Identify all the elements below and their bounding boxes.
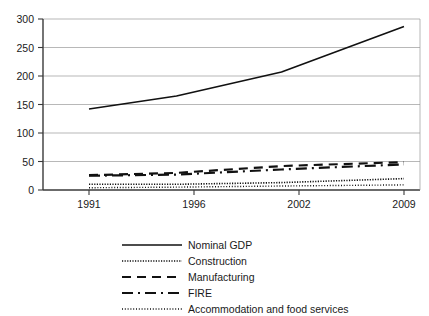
x-tick-label-1996: 1996 [182,198,206,210]
legend-label-construction: Construction [188,255,247,267]
legend-label-accommodation: Accommodation and food services [188,303,349,315]
x-tick-label-2002: 2002 [287,198,311,210]
legend-label-manufacturing: Manufacturing [188,271,255,283]
chart-container: 300 250 200 150 100 50 0 1991 1996 2002 … [0,0,429,316]
y-tick-label-200: 200 [16,70,34,82]
legend-label-nominal-gdp: Nominal GDP [188,239,252,251]
y-tick-label-150: 150 [16,99,34,111]
y-tick-label-250: 250 [16,42,34,54]
y-tick-label-50: 50 [22,156,34,168]
x-tick-label-2009: 2009 [392,198,416,210]
y-tick-label-0: 0 [28,184,34,196]
line-chart: 300 250 200 150 100 50 0 1991 1996 2002 … [0,0,429,316]
y-tick-label-300: 300 [16,13,34,25]
legend-label-fire: FIRE [188,287,212,299]
x-tick-label-1991: 1991 [77,198,101,210]
y-tick-label-100: 100 [16,127,34,139]
